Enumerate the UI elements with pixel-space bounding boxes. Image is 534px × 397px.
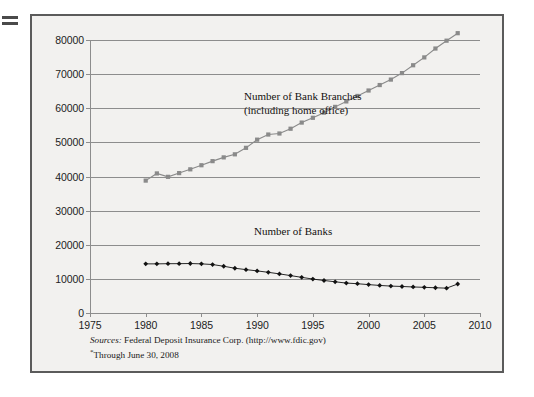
data-point <box>400 71 404 75</box>
y-tick-label-30000: 30000 <box>55 205 84 217</box>
data-point <box>433 285 438 290</box>
data-point <box>199 261 204 266</box>
x-tick-mark-1990 <box>257 313 258 317</box>
x-tick-mark-1995 <box>313 313 314 317</box>
page-edge-mark <box>2 16 18 25</box>
data-point <box>166 261 171 266</box>
data-point <box>333 279 338 284</box>
source-label: Sources: <box>90 335 122 345</box>
y-tick-label-70000: 70000 <box>55 68 84 80</box>
data-point <box>366 282 371 287</box>
y-tick-label-80000: 80000 <box>55 34 84 46</box>
figure-frame: 0100002000030000400005000060000700008000… <box>30 14 504 373</box>
data-point <box>233 152 237 156</box>
y-tick-label-60000: 60000 <box>55 102 84 114</box>
source-text: Federal Deposit Insurance Corp. (http://… <box>124 335 326 345</box>
data-point <box>288 127 292 131</box>
data-point <box>255 138 259 142</box>
branches-annotation-line-1: Number of Bank Branches <box>244 90 362 104</box>
data-point <box>232 266 237 271</box>
data-point <box>244 267 249 272</box>
banks-series-annotation: Number of Banks <box>254 225 332 239</box>
data-point <box>344 281 349 286</box>
x-tick-label-1985: 1985 <box>190 319 213 331</box>
data-point <box>355 281 360 286</box>
data-point <box>389 77 393 81</box>
series-layer <box>90 40 480 313</box>
y-tick-label-40000: 40000 <box>55 171 84 183</box>
x-tick-label-1990: 1990 <box>246 319 269 331</box>
data-point <box>411 63 415 67</box>
x-tick-mark-1985 <box>201 313 202 317</box>
data-point <box>288 273 293 278</box>
data-point <box>277 271 282 276</box>
data-point <box>188 167 192 171</box>
data-point <box>144 179 148 183</box>
data-point <box>456 31 460 35</box>
branches-annotation-line-2: (including home office) <box>244 104 362 118</box>
banks-annotation-line: Number of Banks <box>254 225 332 239</box>
x-tick-label-2010: 2010 <box>469 319 492 331</box>
data-point <box>455 282 460 287</box>
data-point <box>210 159 214 163</box>
data-point <box>199 163 203 167</box>
data-point <box>422 55 426 59</box>
x-tick-mark-2000 <box>369 313 370 317</box>
data-point <box>177 261 182 266</box>
data-point <box>244 146 248 150</box>
data-point <box>378 83 382 87</box>
y-tick-label-50000: 50000 <box>55 136 84 148</box>
y-tick-label-0: 0 <box>78 307 84 319</box>
data-point <box>166 175 170 179</box>
data-point <box>377 283 382 288</box>
data-point <box>444 286 449 291</box>
y-tick-label-20000: 20000 <box>55 239 84 251</box>
data-point <box>299 275 304 280</box>
x-tick-mark-1980 <box>146 313 147 317</box>
data-point <box>300 120 304 124</box>
data-point <box>154 261 159 266</box>
data-point <box>433 46 437 50</box>
x-tick-mark-2010 <box>480 313 481 317</box>
data-point <box>177 171 181 175</box>
data-point <box>422 285 427 290</box>
footnote-text: Through June 30, 2008 <box>94 350 179 360</box>
x-tick-label-2005: 2005 <box>413 319 436 331</box>
source-note: Sources: Federal Deposit Insurance Corp.… <box>90 334 326 363</box>
y-tick-label-10000: 10000 <box>55 273 84 285</box>
data-point <box>188 261 193 266</box>
x-tick-label-1995: 1995 <box>301 319 324 331</box>
data-point <box>388 284 393 289</box>
data-point <box>210 262 215 267</box>
data-point <box>266 132 270 136</box>
data-point <box>366 88 370 92</box>
x-axis-line <box>90 313 480 314</box>
data-point <box>400 284 405 289</box>
data-point <box>266 270 271 275</box>
data-point <box>277 131 281 135</box>
branches-series-annotation: Number of Bank Branches (including home … <box>244 90 362 118</box>
x-tick-mark-2005 <box>424 313 425 317</box>
data-point <box>411 285 416 290</box>
x-tick-label-1975: 1975 <box>79 319 102 331</box>
chart-plot-area: 0100002000030000400005000060000700008000… <box>90 40 480 313</box>
data-point <box>155 171 159 175</box>
data-point <box>322 278 327 283</box>
data-point <box>143 261 148 266</box>
data-point <box>255 268 260 273</box>
footnote-line: Through June 30, 2008 <box>90 347 326 362</box>
data-point <box>221 264 226 269</box>
source-line: Sources: Federal Deposit Insurance Corp.… <box>90 334 326 347</box>
data-point <box>444 39 448 43</box>
x-tick-label-1980: 1980 <box>134 319 157 331</box>
data-point <box>310 277 315 282</box>
x-tick-mark-1975 <box>90 313 91 317</box>
x-tick-label-2000: 2000 <box>357 319 380 331</box>
data-point <box>222 155 226 159</box>
